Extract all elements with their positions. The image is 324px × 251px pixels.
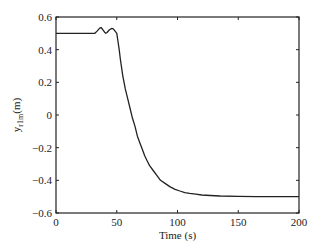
y-tick-label: 0.4 (38, 44, 52, 56)
y-axis-label-unit: (m) (10, 98, 23, 114)
y-tick-label: −0.6 (32, 207, 52, 219)
data-line-series (56, 28, 299, 197)
x-tick-label: 150 (230, 216, 247, 228)
x-tick-label: 0 (53, 216, 59, 228)
line-chart: 050100150200 0.60.40.20−0.2−0.4−0.6 Time… (0, 0, 324, 251)
y-axis: 0.60.40.20−0.2−0.4−0.6 (32, 11, 299, 219)
x-axis-label: Time (s) (159, 229, 197, 242)
y-tick-label: −0.4 (32, 174, 52, 186)
series-line (56, 28, 299, 197)
x-tick-label: 100 (169, 216, 186, 228)
y-axis-label-subscript: r1m (16, 113, 25, 127)
y-axis-label: yr1m(m) (10, 98, 25, 133)
y-tick-label: 0 (47, 109, 53, 121)
plot-frame (56, 17, 299, 213)
y-tick-label: 0.6 (38, 11, 52, 23)
y-tick-label: 0.2 (38, 76, 52, 88)
x-tick-label: 200 (291, 216, 308, 228)
x-tick-label: 50 (111, 216, 123, 228)
y-tick-label: −0.2 (32, 142, 52, 154)
